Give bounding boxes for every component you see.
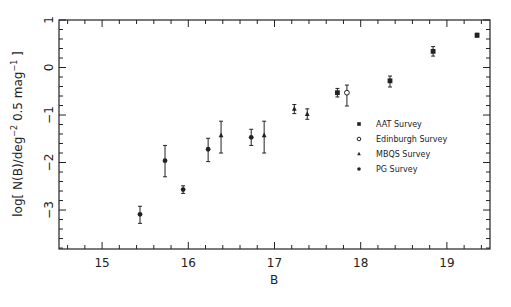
dot-marker-icon [181, 187, 186, 192]
square-marker-icon [475, 33, 480, 38]
dot-marker-icon [163, 158, 168, 163]
y-tick-label: 1 [42, 16, 56, 24]
legend-label: Edinburgh Survey [376, 135, 448, 144]
x-axis-label: B [270, 273, 278, 287]
triangle-marker-icon [292, 106, 297, 111]
legend-item: AAT Survey [357, 120, 422, 129]
legend-label: MBQS Survey [376, 150, 430, 159]
y-tick-label: −3 [42, 201, 56, 219]
dot-marker-icon [138, 212, 143, 217]
y-tick-labels: −3−2−101 [42, 16, 56, 219]
x-tick-label: 15 [94, 256, 109, 270]
triangle-marker-icon [357, 152, 361, 156]
legend-item: PG Survey [357, 165, 417, 174]
circle-marker-icon [345, 90, 350, 95]
x-tick-label: 19 [439, 256, 454, 270]
x-tick-label: 17 [267, 256, 282, 270]
dot-marker-icon [249, 135, 254, 140]
legend-item: MBQS Survey [357, 150, 430, 159]
y-tick-label: 0 [42, 64, 56, 72]
x-tick-label: 16 [181, 256, 196, 270]
y-axis-label: log[ N(B)/deg−2 0.5 mag−1 ] [10, 51, 25, 217]
triangle-marker-icon [262, 133, 267, 138]
square-marker-icon [335, 90, 340, 95]
data-points [138, 33, 480, 224]
square-marker-icon [357, 122, 361, 126]
legend-item: Edinburgh Survey [357, 135, 447, 144]
square-marker-icon [431, 49, 436, 54]
series-pg-survey [138, 129, 254, 223]
triangle-marker-icon [305, 111, 310, 116]
circle-marker-icon [357, 137, 361, 141]
dot-marker-icon [357, 167, 361, 171]
series-edinburgh-survey [345, 85, 350, 106]
y-tick-label: −2 [42, 154, 56, 172]
series-mbqs-survey [219, 105, 310, 153]
square-marker-icon [388, 78, 393, 83]
dot-marker-icon [206, 147, 211, 152]
x-tick-label: 18 [353, 256, 368, 270]
chart: 1516171819 −3−2−101 B log[ N(B)/deg−2 0.… [0, 0, 511, 307]
legend: AAT SurveyEdinburgh SurveyMBQS SurveyPG … [357, 120, 447, 174]
triangle-marker-icon [219, 133, 224, 138]
legend-label: AAT Survey [376, 120, 422, 129]
series-aat-survey [335, 33, 479, 97]
legend-label: PG Survey [376, 165, 418, 174]
y-tick-label: −1 [42, 106, 56, 124]
x-tick-labels: 1516171819 [94, 256, 454, 270]
